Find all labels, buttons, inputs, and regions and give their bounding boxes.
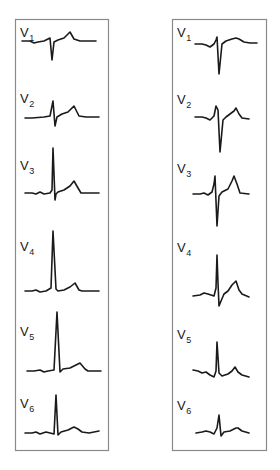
right-panel-leads: V1V2V3V4V5V6 <box>177 25 257 436</box>
left-lead-v6: V6 <box>20 395 99 435</box>
right-panel: V1V2V3V4V5V6 <box>173 20 267 451</box>
lead-label: V5 <box>177 327 191 345</box>
left-panel: V1V2V3V4V5V6 <box>16 20 109 451</box>
lead-label-subscript: 5 <box>186 335 191 345</box>
left-lead-v5: V5 <box>20 312 101 372</box>
ecg-waveform-trace <box>195 37 257 74</box>
lead-label-subscript: 5 <box>29 332 34 342</box>
lead-label-subscript: 4 <box>29 247 34 257</box>
lead-label: V5 <box>20 324 34 342</box>
ecg-waveform-trace <box>27 312 101 372</box>
lead-label: V1 <box>177 25 191 43</box>
lead-label-prefix: V <box>177 161 186 176</box>
lead-label: V3 <box>177 161 191 179</box>
ecg-waveform-trace <box>25 231 99 292</box>
left-panel-frame <box>16 20 109 451</box>
lead-label-prefix: V <box>177 327 186 342</box>
ecg-waveform-trace <box>193 176 249 226</box>
lead-label-subscript: 2 <box>186 100 191 110</box>
lead-label-subscript: 3 <box>186 169 191 179</box>
lead-label-subscript: 1 <box>186 33 191 43</box>
ecg-figure: V1V2V3V4V5V6 V1V2V3V4V5V6 <box>0 0 280 470</box>
lead-label-prefix: V <box>20 25 29 40</box>
lead-label-prefix: V <box>177 25 186 40</box>
lead-label-prefix: V <box>20 239 29 254</box>
right-lead-v1: V1 <box>177 25 257 74</box>
ecg-waveform-trace <box>195 106 249 152</box>
lead-label: V6 <box>20 396 34 414</box>
lead-label-subscript: 6 <box>29 404 34 414</box>
lead-label-subscript: 2 <box>29 99 34 109</box>
ecg-waveform-trace <box>25 101 99 126</box>
left-lead-v1: V1 <box>20 25 96 60</box>
lead-label-prefix: V <box>20 158 29 173</box>
lead-label: V4 <box>20 239 34 257</box>
lead-label-prefix: V <box>177 398 186 413</box>
lead-label: V2 <box>177 92 191 110</box>
lead-label: V4 <box>177 240 191 258</box>
right-lead-v2: V2 <box>177 92 249 152</box>
lead-label-prefix: V <box>177 92 186 107</box>
left-lead-v3: V3 <box>20 148 99 200</box>
lead-label: V6 <box>177 398 191 416</box>
ecg-waveform-trace <box>25 148 99 200</box>
right-lead-v3: V3 <box>177 161 249 226</box>
ecg-waveform-trace <box>196 415 249 436</box>
lead-label: V3 <box>20 158 34 176</box>
lead-label-prefix: V <box>20 91 29 106</box>
ecg-waveform-trace <box>25 395 99 435</box>
lead-label-subscript: 4 <box>186 248 191 258</box>
lead-label-subscript: 6 <box>186 406 191 416</box>
left-panel-leads: V1V2V3V4V5V6 <box>20 25 101 435</box>
lead-label-subscript: 3 <box>29 166 34 176</box>
ecg-waveform-trace <box>193 255 249 306</box>
right-lead-v5: V5 <box>177 327 249 377</box>
lead-label-prefix: V <box>20 324 29 339</box>
lead-label-prefix: V <box>177 240 186 255</box>
right-lead-v6: V6 <box>177 398 249 436</box>
left-lead-v4: V4 <box>20 231 99 292</box>
lead-label-prefix: V <box>20 396 29 411</box>
lead-label: V2 <box>20 91 34 109</box>
ecg-waveform-trace <box>193 342 249 377</box>
left-lead-v2: V2 <box>20 91 99 126</box>
right-panel-frame <box>173 20 267 451</box>
right-lead-v4: V4 <box>177 240 249 306</box>
